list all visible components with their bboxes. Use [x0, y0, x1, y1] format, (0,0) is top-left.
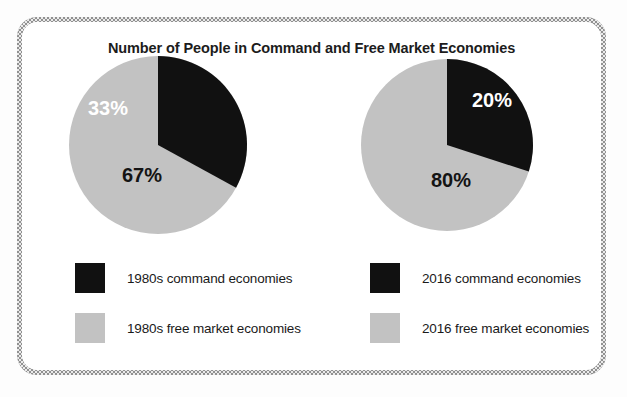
legend-item: 2016 command economies — [370, 263, 589, 293]
legend-item-label: 1980s command economies — [127, 271, 292, 286]
pie-value-label-1980s-free-market: 67% — [122, 164, 162, 187]
chart-title: Number of People in Command and Free Mar… — [22, 40, 601, 56]
figure-page: Number of People in Command and Free Mar… — [0, 0, 627, 397]
pie-chart-1980s-svg — [68, 55, 248, 235]
pie-value-label-2016-command: 20% — [472, 89, 512, 112]
legend-item-label: 2016 free market economies — [422, 321, 589, 336]
legend-swatch-free-market-icon — [75, 313, 105, 343]
legend-swatch-command-icon — [75, 263, 105, 293]
pie-chart-1980s: 33% 67% — [68, 55, 248, 235]
legend-2016: 2016 command economies 2016 free market … — [370, 263, 589, 343]
legend-item: 1980s command economies — [75, 263, 301, 293]
chart-area: Number of People in Command and Free Mar… — [22, 22, 601, 370]
pie-value-label-2016-free-market: 80% — [431, 169, 471, 192]
legend-item: 2016 free market economies — [370, 313, 589, 343]
legend-swatch-command-icon — [370, 263, 400, 293]
pie-value-label-1980s-command: 33% — [88, 97, 128, 120]
legend-item: 1980s free market economies — [75, 313, 301, 343]
legend-swatch-free-market-icon — [370, 313, 400, 343]
legend-item-label: 1980s free market economies — [127, 321, 301, 336]
legend-item-label: 2016 command economies — [422, 271, 581, 286]
legend-1980s: 1980s command economies 1980s free marke… — [75, 263, 301, 343]
pie-chart-2016-svg — [360, 58, 534, 232]
pie-chart-2016: 20% 80% — [360, 58, 534, 232]
